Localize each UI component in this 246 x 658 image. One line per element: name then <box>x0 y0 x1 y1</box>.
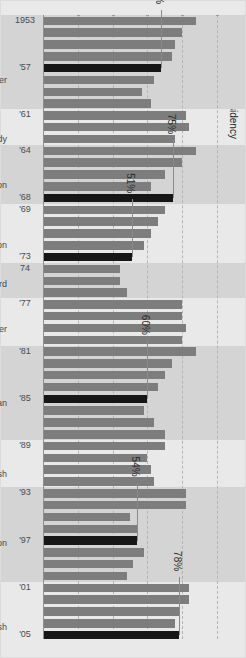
bar-1955 <box>43 40 175 49</box>
callout-label-1968: 75% <box>167 114 178 134</box>
chart-figure: Fifth year of presidency 78%54%60%51%75%… <box>0 0 246 658</box>
year-tick-1961: '61 <box>19 109 31 119</box>
bar-1968 <box>43 194 174 203</box>
year-tick-1973: '73 <box>19 251 31 261</box>
plot-area: 78%54%60%51%75%68% 1953'57'61'64'68'69'7… <box>43 15 215 639</box>
callout-label-1985: 60% <box>140 315 151 335</box>
year-tick-1974: 74 <box>20 263 30 273</box>
year-tick-1953: 1953 <box>15 15 35 25</box>
bar-1981 <box>43 347 196 356</box>
callout-label-1973: 51% <box>125 173 136 193</box>
callout-leader-1957 <box>161 10 162 68</box>
bar-1986 <box>43 406 144 415</box>
bar-1999 <box>43 560 133 569</box>
bar-1998 <box>43 548 144 557</box>
callout-label-2005: 78% <box>172 551 183 571</box>
value-tick-60 <box>146 15 149 16</box>
bar-1985 <box>43 395 147 404</box>
year-tick-1985: '85 <box>19 393 31 403</box>
bar-1971 <box>43 229 151 238</box>
bar-2001 <box>43 584 189 593</box>
bar-1977 <box>43 300 182 309</box>
bar-2005 <box>43 631 179 640</box>
bar-1970 <box>43 217 158 226</box>
president-label-kennedy: Kennedy <box>0 134 7 144</box>
bar-1982 <box>43 359 172 368</box>
callout-leader-1973 <box>132 199 133 257</box>
year-tick-2005: '05 <box>19 629 31 639</box>
callout-leader-1968 <box>174 140 175 198</box>
value-axis-line <box>43 15 44 639</box>
bar-1957 <box>43 64 161 73</box>
president-label-nixon: Nixon <box>0 240 7 250</box>
value-tick-20 <box>77 15 80 16</box>
bar-1980 <box>43 336 182 345</box>
bar-1993 <box>43 489 186 498</box>
value-tick-40 <box>112 15 115 16</box>
callout-leader-1985 <box>147 341 148 399</box>
bar-1959 <box>43 88 142 97</box>
bar-1969 <box>43 206 165 215</box>
value-tick-100 <box>216 15 219 16</box>
bar-1961 <box>43 111 186 120</box>
year-tick-1997: '97 <box>19 535 31 545</box>
bar-1965 <box>43 158 182 167</box>
bar-1974 <box>43 265 120 274</box>
year-tick-1968: '68 <box>19 192 31 202</box>
bar-1984 <box>43 383 158 392</box>
value-tick-80 <box>181 15 184 16</box>
callout-label-1957: 68% <box>154 0 165 4</box>
bar-1972 <box>43 241 144 250</box>
bar-2000 <box>43 572 127 581</box>
bar-1975 <box>43 277 120 286</box>
bar-2004 <box>43 619 175 628</box>
bar-1978 <box>43 312 182 321</box>
president-label-reagan: Reagan <box>0 398 7 408</box>
bar-2002 <box>43 595 189 604</box>
screenshot-root: Fifth year of presidency 78%54%60%51%75%… <box>0 0 246 658</box>
rotated-figure-wrapper: Fifth year of presidency 78%54%60%51%75%… <box>0 0 246 658</box>
president-label-eisenhower: Eisenhower <box>0 75 7 85</box>
bar-1989 <box>43 442 165 451</box>
president-label-clinton: Clinton <box>0 538 7 548</box>
bar-1994 <box>43 501 186 510</box>
president-label-johnson: Johnson <box>0 180 7 190</box>
year-tick-1964: '64 <box>19 145 31 155</box>
bar-1966 <box>43 170 165 179</box>
president-label-g-w-bush: G.W. Bush <box>0 622 7 632</box>
bar-1996 <box>43 525 137 534</box>
year-tick-1969: '69 <box>19 204 31 214</box>
bar-1995 <box>43 513 130 522</box>
bar-1997 <box>43 536 137 545</box>
bar-1956 <box>43 52 172 61</box>
year-tick-2001: '01 <box>19 582 31 592</box>
bar-1960 <box>43 99 151 108</box>
year-tick-1977: '77 <box>19 298 31 308</box>
year-tick-1981: '81 <box>19 346 31 356</box>
president-label-g-bush: G. Bush <box>0 469 7 479</box>
bar-1976 <box>43 288 127 297</box>
president-label-ford: Ford <box>0 279 7 289</box>
callout-label-1997: 54% <box>130 457 141 477</box>
president-label-carter: Carter <box>0 324 7 334</box>
gridline-100 <box>217 15 218 639</box>
bar-1973 <box>43 253 132 262</box>
bar-1958 <box>43 76 154 85</box>
bar-2003 <box>43 607 179 616</box>
year-tick-1989: '89 <box>19 440 31 450</box>
bar-1963 <box>43 135 175 144</box>
bar-1987 <box>43 418 154 427</box>
callout-leader-1997 <box>137 483 138 541</box>
year-tick-1993: '93 <box>19 487 31 497</box>
bar-1953 <box>43 17 196 26</box>
bar-1988 <box>43 430 165 439</box>
callout-leader-2005 <box>179 577 180 635</box>
bar-1979 <box>43 324 186 333</box>
year-tick-1957: '57 <box>19 62 31 72</box>
